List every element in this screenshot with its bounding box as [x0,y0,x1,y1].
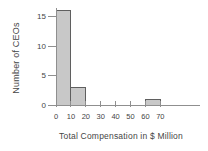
x-tick-label: 60 [141,112,149,121]
plot-canvas: 051015010203040506070 [0,0,208,151]
x-tick-label: 10 [67,112,75,121]
ceo-compensation-histogram: 051015010203040506070 Number of CEOs Tot… [0,0,208,151]
x-tick-label: 20 [82,112,90,121]
x-tick-label: 30 [97,112,105,121]
histogram-bar-1 [71,87,86,105]
histogram-bar-0 [56,11,71,105]
histogram-bar-6 [145,99,160,105]
y-tick-label: 15 [37,12,46,21]
x-tick-label: 40 [111,112,119,121]
x-tick-label: 0 [54,112,58,121]
x-axis-title: Total Compensation in $ Million [59,131,183,141]
x-tick-label: 70 [156,112,164,121]
y-tick-label: 10 [37,42,46,51]
y-tick-label: 5 [42,71,47,80]
x-tick-label: 50 [126,112,134,121]
y-tick-label: 0 [42,101,47,110]
y-axis-title: Number of CEOs [11,22,21,93]
